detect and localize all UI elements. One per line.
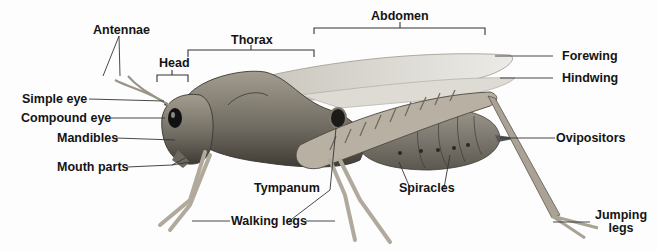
label-hindwing: Hindwing [562,72,618,85]
grasshopper-diagram: Head Thorax Abdomen Antennae Simple eye … [0,0,658,251]
label-jumping-legs-line2: legs [592,222,650,235]
label-walking-legs: Walking legs [231,215,307,228]
label-abdomen: Abdomen [371,10,429,23]
compound-eye-shape [168,108,182,128]
label-simple-eye: Simple eye [22,93,87,106]
label-mandibles: Mandibles [57,132,118,145]
label-thorax: Thorax [231,34,273,47]
label-ovipositors: Ovipositors [556,132,625,145]
label-jumping-legs-line1: Jumping [592,209,650,222]
antennae-shape [115,76,170,106]
walking-legs-shape [160,152,390,242]
grasshopper-illustration [0,0,658,251]
label-mouth-parts: Mouth parts [57,161,129,174]
label-forewing: Forewing [562,50,618,63]
label-tympanum: Tympanum [254,182,320,195]
label-antennae: Antennae [93,24,150,37]
label-spiracles: Spiracles [399,182,455,195]
label-compound-eye: Compound eye [21,112,111,125]
tympanum-shape [330,108,346,128]
label-head: Head [159,57,190,70]
